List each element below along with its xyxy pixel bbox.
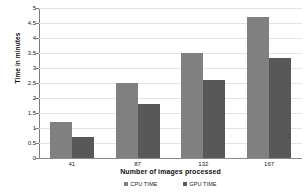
legend-swatch-icon [183, 182, 187, 186]
bar-gpu-time [72, 137, 94, 158]
bar-gpu-time [269, 58, 291, 159]
y-axis-tick-mark [35, 113, 39, 114]
bar-chart: Time in minutes 00.511.522.533.544.55 41… [0, 0, 306, 193]
y-axis-tick-label: 1 [20, 125, 36, 131]
legend-label: GPU TIME [189, 181, 216, 187]
plot-area [39, 8, 302, 158]
y-axis-tick-mark [35, 143, 39, 144]
y-axis-tick-label: 4.5 [20, 20, 36, 26]
x-axis-tick-label: 132 [171, 160, 237, 168]
legend-item: CPU TIME [124, 181, 157, 187]
y-axis-tick-label: 0.5 [20, 140, 36, 146]
y-axis-tick-mark [35, 98, 39, 99]
chart-legend: CPU TIMEGPU TIME [39, 178, 302, 190]
y-axis-tick-mark [35, 38, 39, 39]
y-axis-tick-mark [35, 8, 39, 9]
y-axis-tick-mark [35, 53, 39, 54]
x-axis-baseline [39, 158, 302, 159]
bar-cpu-time [50, 122, 72, 158]
y-axis-tick-label: 5 [20, 5, 36, 11]
x-axis-tick-label: 41 [39, 160, 105, 168]
bar-group [247, 8, 291, 158]
y-axis-tick-label: 4 [20, 35, 36, 41]
y-axis-tick-label: 3 [20, 65, 36, 71]
bar-group [116, 8, 160, 158]
y-axis-tick-label: 2 [20, 95, 36, 101]
bar-gpu-time [203, 80, 225, 158]
bar-cpu-time [116, 83, 138, 158]
legend-item: GPU TIME [183, 181, 216, 187]
y-axis-tick-labels: 00.511.522.533.544.55 [20, 8, 36, 158]
y-axis-tick-mark [35, 158, 39, 159]
bar-group [50, 8, 94, 158]
bar-group [181, 8, 225, 158]
x-axis-tick-label: 87 [105, 160, 171, 168]
y-axis-tick-label: 0 [20, 155, 36, 161]
y-axis-tick-mark [35, 23, 39, 24]
legend-label: CPU TIME [130, 181, 157, 187]
x-axis-title: Number of images processed [39, 168, 302, 175]
bar-cpu-time [181, 53, 203, 158]
y-axis-tick-label: 2.5 [20, 80, 36, 86]
y-axis-tick-mark [35, 83, 39, 84]
legend-swatch-icon [124, 182, 128, 186]
x-axis-tick-label: 167 [236, 160, 302, 168]
bar-cpu-time [247, 17, 269, 158]
bar-gpu-time [138, 104, 160, 158]
y-axis-tick-label: 3.5 [20, 50, 36, 56]
y-axis-tick-mark [35, 128, 39, 129]
y-axis-tick-label: 1.5 [20, 110, 36, 116]
y-axis-tick-mark [35, 68, 39, 69]
